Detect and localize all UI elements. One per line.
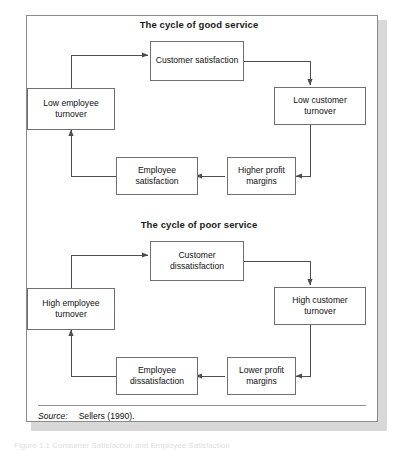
section-title-poor-service: The cycle of poor service: [0, 219, 398, 230]
node-high-employee-turnover: High employee turnover: [27, 288, 115, 330]
node-label: Higher profit margins: [228, 165, 295, 188]
node-customer-dissatisfaction: Customer dissatisfaction: [150, 241, 244, 281]
node-employee-satisfaction: Employee satisfaction: [116, 157, 198, 195]
node-employee-dissatisfaction: Employee dissatisfaction: [116, 357, 198, 395]
node-label: Employee satisfaction: [117, 165, 197, 188]
node-higher-profit-margins: Higher profit margins: [227, 157, 296, 195]
node-label: Low employee turnover: [28, 98, 114, 121]
source-label: Source:: [38, 411, 68, 421]
node-label: Customer satisfaction: [154, 55, 241, 67]
node-label: Customer dissatisfaction: [151, 250, 243, 273]
node-label: High customer turnover: [275, 295, 365, 318]
node-high-customer-turnover: High customer turnover: [274, 287, 366, 325]
node-customer-satisfaction: Customer satisfaction: [150, 41, 244, 81]
source-divider: [38, 405, 366, 406]
node-low-employee-turnover: Low employee turnover: [27, 88, 115, 130]
node-lower-profit-margins: Lower profit margins: [227, 357, 296, 395]
node-label: Lower profit margins: [228, 365, 295, 388]
node-label: High employee turnover: [28, 298, 114, 321]
figure-caption-cropped: Figure 1.1 Consumer Satisfaction and Emp…: [14, 441, 354, 450]
source-text: Sellers (1990).: [79, 411, 135, 421]
node-low-customer-turnover: Low customer turnover: [274, 87, 366, 125]
node-label: Low customer turnover: [275, 95, 365, 118]
source-line: Source:Sellers (1990).: [38, 411, 135, 421]
section-title-good-service: The cycle of good service: [0, 19, 398, 30]
node-label: Employee dissatisfaction: [117, 365, 197, 388]
